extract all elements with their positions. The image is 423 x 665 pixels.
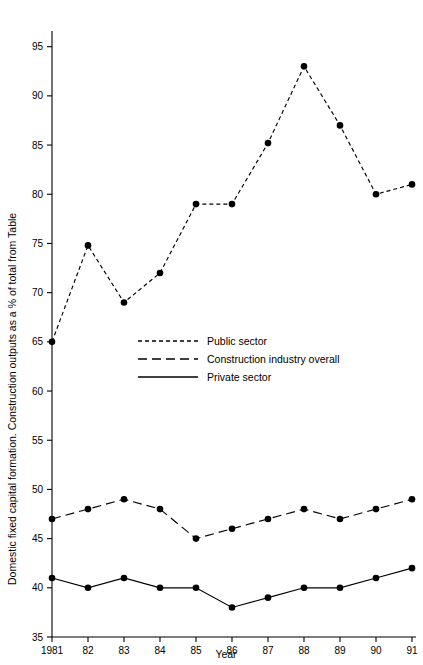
data-point-marker [85,506,92,513]
series-path [52,499,412,538]
y-tick-label: 35 [32,632,44,643]
line-chart-canvas: Domestic fixed capital formation. Constr… [0,0,423,665]
x-tick-label: 84 [154,645,166,656]
x-axis-title: Year [215,648,237,660]
data-point-marker [265,140,272,147]
data-point-marker [337,122,344,129]
data-point-marker [373,191,380,198]
data-point-marker [157,506,164,513]
x-tick-label: 1981 [41,645,64,656]
data-point-marker [337,585,344,592]
y-tick-label: 70 [32,287,44,298]
data-point-marker [157,270,164,277]
y-tick-label: 45 [32,533,44,544]
data-point-marker [265,594,272,601]
x-tick-label: 88 [298,645,310,656]
x-tick-label: 87 [262,645,274,656]
x-tick-label: 89 [334,645,346,656]
data-point-marker [229,525,236,532]
chart-legend: Public sectorConstruction industry overa… [138,335,339,383]
x-tick-label: 91 [406,645,418,656]
data-point-marker [49,516,56,523]
legend-label: Public sector [207,335,268,347]
data-point-marker [85,585,92,592]
y-axis-title: Domestic fixed capital formation. Constr… [6,213,18,585]
data-point-marker [157,585,164,592]
data-point-marker [121,575,128,582]
y-tick-label: 95 [32,41,44,52]
data-point-marker [301,585,308,592]
data-point-marker [193,585,200,592]
data-point-marker [409,181,416,188]
series-construction-industry-overall [49,496,416,542]
legend-label: Construction industry overall [207,353,339,365]
series-public-sector [49,63,416,345]
data-point-marker [373,575,380,582]
data-point-marker [265,516,272,523]
chart-figure: Domestic fixed capital formation. Constr… [0,0,423,665]
y-tick-label: 75 [32,238,44,249]
data-point-marker [229,604,236,611]
x-tick-label: 90 [370,645,382,656]
data-point-marker [49,575,56,582]
y-tick-label: 80 [32,189,44,200]
x-tick-label: 82 [82,645,94,656]
y-tick-label: 50 [32,484,44,495]
y-tick-label: 65 [32,336,44,347]
y-tick-label: 90 [32,90,44,101]
x-tick-label: 85 [190,645,202,656]
y-tick-label: 60 [32,386,44,397]
data-point-marker [337,516,344,523]
data-point-marker [193,201,200,208]
series-private-sector [49,565,416,611]
data-point-marker [121,496,128,503]
data-point-marker [301,506,308,513]
x-tick-label: 83 [118,645,130,656]
data-point-marker [49,339,56,346]
y-tick-label: 40 [32,582,44,593]
legend-label: Private sector [207,371,272,383]
y-tick-label: 85 [32,140,44,151]
data-point-marker [121,299,128,306]
data-point-marker [229,201,236,208]
data-point-marker [409,565,416,572]
data-point-marker [85,242,92,249]
data-point-marker [373,506,380,513]
data-point-marker [409,496,416,503]
data-point-marker [301,63,308,70]
series-path [52,568,412,607]
data-point-marker [193,535,200,542]
y-tick-label: 55 [32,435,44,446]
y-axis-title-group: Domestic fixed capital formation. Constr… [6,213,18,585]
